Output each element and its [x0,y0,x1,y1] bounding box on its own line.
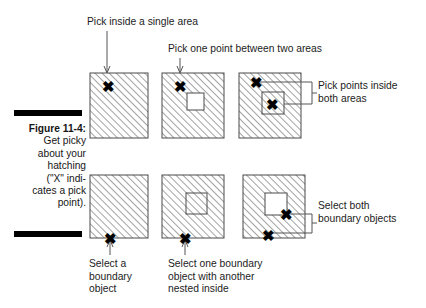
caption-rule-top [14,110,86,116]
leader-top-left-arrow [104,66,110,73]
pick-point-x-icon: ✖ [174,79,187,94]
annotation-pick-one-point-between: Pick one point between two areas [168,43,322,56]
pick-point-x-icon: ✖ [280,207,293,222]
pick-point-x-icon: ✖ [179,231,192,246]
bottom-square-2-outer [162,175,224,238]
figure-container: Figure 11-4: Get picky about your hatchi… [0,0,426,308]
bottom-square-2-inner [186,193,207,214]
pick-point-x-icon: ✖ [262,228,275,243]
top-square-2-inner [187,93,204,110]
caption-line-4: ("X" indi- [8,173,86,185]
top-square-1-outer [90,73,148,138]
annotation-select-one-boundary-nested: Select one boundary object with another … [168,258,262,296]
annotation-select-both-boundary: Select both boundary objects [318,200,396,225]
bottom-square-1-outer [90,175,148,238]
caption-line-1: Get picky [8,135,86,147]
annotation-pick-inside-single-area: Pick inside a single area [87,16,198,29]
figure-caption: Figure 11-4: Get picky about your hatchi… [8,123,86,210]
figure-number-label: Figure 11-4: [8,123,86,135]
caption-rule-bottom [14,231,82,237]
caption-line-2: about your [8,148,86,160]
pick-point-x-icon: ✖ [102,79,115,94]
pick-point-x-icon: ✖ [104,231,117,246]
annotation-pick-points-both-areas: Pick points inside both areas [318,80,398,105]
pick-point-x-icon: ✖ [250,75,263,90]
pick-point-x-icon: ✖ [266,97,279,112]
caption-line-5: cates a pick [8,185,86,197]
leader-top-middle-arrow [177,66,183,73]
caption-line-3: hatching [8,160,86,172]
annotation-select-a-boundary: Select a boundary object [89,258,132,296]
top-square-2-outer [162,73,224,138]
caption-line-6: point). [8,197,86,209]
